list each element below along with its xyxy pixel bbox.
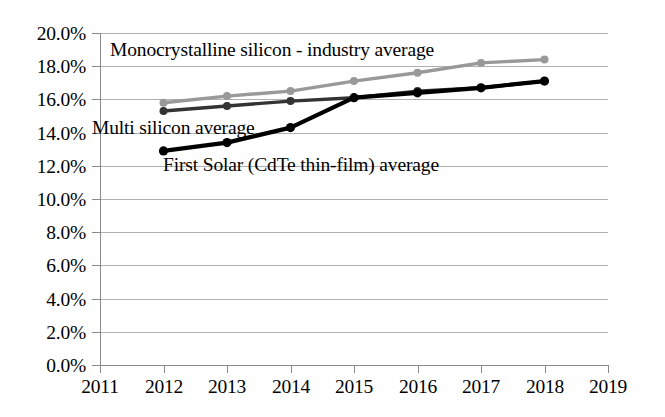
data-point bbox=[476, 83, 485, 92]
data-point bbox=[222, 138, 231, 147]
data-point bbox=[350, 77, 358, 85]
data-point bbox=[477, 59, 485, 67]
series-plot bbox=[0, 0, 665, 417]
data-point bbox=[160, 99, 168, 107]
data-point bbox=[414, 69, 422, 77]
series-2 bbox=[159, 77, 549, 156]
annotation-multi-silicon: Multi silicon average bbox=[92, 118, 255, 138]
series-line bbox=[164, 81, 545, 151]
data-point bbox=[223, 92, 231, 100]
data-point bbox=[541, 56, 549, 64]
data-point bbox=[160, 107, 168, 115]
efficiency-line-chart: 0.0%2.0%4.0%6.0%8.0%10.0%12.0%14.0%16.0%… bbox=[0, 0, 665, 417]
annotation-monocrystalline-silicon: Monocrystalline silicon - industry avera… bbox=[110, 40, 434, 60]
annotation-first-solar: First Solar (CdTe thin-film) average bbox=[163, 155, 439, 175]
data-point bbox=[349, 93, 358, 102]
data-point bbox=[540, 77, 549, 86]
data-point bbox=[413, 88, 422, 97]
data-point bbox=[223, 102, 231, 110]
data-point bbox=[287, 87, 295, 95]
data-point bbox=[286, 123, 295, 132]
data-point bbox=[287, 97, 295, 105]
